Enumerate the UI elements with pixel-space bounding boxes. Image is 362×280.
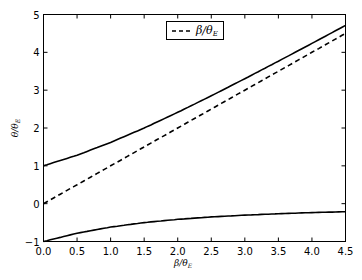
x-tick-label: 1.5 — [136, 246, 152, 257]
x-tick-label: 2.0 — [170, 246, 186, 257]
y-tick-label: 5 — [33, 10, 39, 21]
legend: β/θE — [167, 22, 224, 40]
x-tick-label: 3.0 — [237, 246, 253, 257]
y-tick-label: 3 — [33, 85, 39, 96]
y-tick-label: 1 — [33, 161, 39, 172]
x-tick-label: 4.0 — [304, 246, 320, 257]
x-tick-label: 0.5 — [69, 246, 85, 257]
y-tick-label: 4 — [33, 47, 39, 58]
x-tick-label: 4.5 — [338, 246, 354, 257]
y-tick-label: 0 — [33, 199, 39, 210]
x-tick-label: 1.0 — [103, 246, 119, 257]
chart-background — [0, 0, 362, 280]
chart: 0.00.51.01.52.02.53.03.54.04.5−1012345 β… — [0, 0, 362, 280]
x-tick-label: 2.5 — [203, 246, 219, 257]
y-tick-label: −1 — [25, 237, 40, 248]
x-tick-label: 3.5 — [270, 246, 286, 257]
y-tick-label: 2 — [33, 123, 39, 134]
